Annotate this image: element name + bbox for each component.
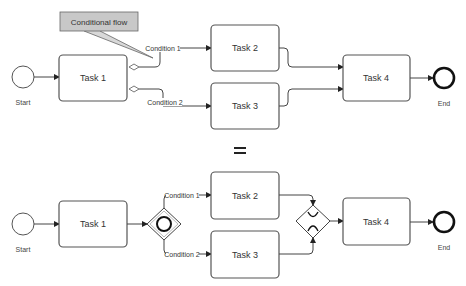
- top-diagram: Conditional flow Start Task 1 Condition …: [12, 12, 454, 129]
- task-2-label: Task 2: [232, 191, 258, 201]
- task-4-label: Task 4: [363, 73, 389, 83]
- start-event[interactable]: [12, 213, 34, 235]
- condition-diamond-icon: [129, 64, 139, 70]
- end-event[interactable]: [434, 68, 454, 88]
- start-label: Start: [16, 246, 31, 253]
- task-1-label: Task 1: [80, 73, 106, 83]
- task-4-label: Task 4: [363, 217, 389, 227]
- condition-diamond-icon: [129, 86, 139, 92]
- sequence-flow: [279, 48, 343, 67]
- condition-2-label: Condition 2: [147, 99, 183, 106]
- condition-1-label: Condition 1: [164, 192, 200, 199]
- callout-label: Conditional flow: [71, 18, 128, 27]
- sequence-flow: [279, 89, 343, 106]
- circle-icon: [157, 217, 171, 231]
- inclusive-gateway[interactable]: [147, 208, 181, 240]
- sequence-flow: [279, 195, 313, 205]
- end-event[interactable]: [434, 212, 454, 232]
- bottom-diagram: Start Task 1 Condition 1 Condition 2 Tas…: [12, 172, 454, 278]
- sequence-flow: [279, 238, 313, 254]
- task-1-label: Task 1: [80, 219, 106, 229]
- task-2-label: Task 2: [232, 43, 258, 53]
- end-label: End: [438, 100, 451, 107]
- conditional-flow-callout: Conditional flow: [60, 12, 153, 58]
- task-3-label: Task 3: [232, 250, 258, 260]
- start-event[interactable]: [12, 66, 34, 88]
- exclusive-gateway[interactable]: [296, 205, 330, 238]
- end-label: End: [438, 244, 451, 251]
- condition-2-label: Condition 2: [164, 251, 200, 258]
- task-3-label: Task 3: [232, 101, 258, 111]
- equals-sign: [234, 147, 246, 154]
- condition-1-label: Condition 1: [145, 45, 181, 52]
- start-label: Start: [16, 99, 31, 106]
